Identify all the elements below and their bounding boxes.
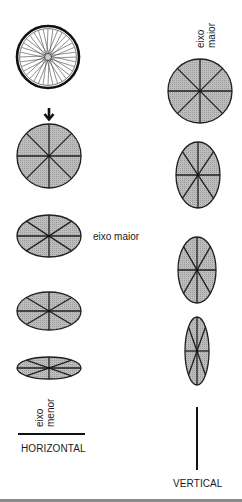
vertical-caption: VERTICAL <box>173 478 223 489</box>
down-arrow-icon <box>45 108 54 120</box>
minor-axis-label-line2: menor <box>45 391 56 427</box>
minor-axis-label-line1: eixo <box>34 391 45 427</box>
vertical-ellipse-4 <box>185 317 209 385</box>
horizontal-ellipse-4 <box>17 357 81 379</box>
vertical-ellipse-1 <box>168 59 232 123</box>
horizontal-caption: HORIZONTAL <box>21 443 86 454</box>
vertical-ellipse-2 <box>176 142 220 208</box>
major-axis-label-line2: maior <box>206 12 217 48</box>
horizontal-ellipse-series <box>17 124 81 379</box>
major-axis-label-line1: eixo <box>195 12 206 48</box>
horizontal-ellipse-3 <box>17 292 81 330</box>
horizontal-ellipse-1 <box>17 124 81 188</box>
minor-axis-label: eixo menor <box>34 391 56 427</box>
major-axis-label-vertical: eixo maior <box>195 12 217 48</box>
major-axis-label-horizontal: eixo maior <box>93 231 139 242</box>
horizontal-ellipse-2 <box>17 215 81 257</box>
bicycle-wheel-icon <box>17 26 79 88</box>
vertical-ellipse-series <box>168 59 232 385</box>
vertical-ellipse-3 <box>178 237 216 303</box>
